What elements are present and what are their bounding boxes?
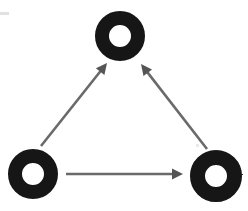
scan-artifact-speck: [196, 144, 199, 147]
top-ring-shape: [102, 18, 138, 54]
edge-right-to-top-line: [147, 71, 207, 149]
diagram-canvas: [0, 0, 248, 211]
edge-left-to-top-line: [41, 70, 101, 146]
edge-right-to-top: [141, 64, 207, 149]
bottom-left-ring-shape: [15, 156, 51, 192]
diagram-svg: [0, 0, 248, 211]
node-bottom-right-ring: [198, 158, 235, 195]
node-top-ring: [102, 18, 138, 54]
node-bottom-left-ring: [15, 156, 51, 192]
edge-left-to-right: [66, 169, 183, 180]
scan-artifact-speck: [0, 12, 9, 15]
arrowhead-icon: [172, 169, 183, 180]
bottom-right-ring-shape: [198, 158, 235, 195]
edge-left-to-top: [41, 63, 107, 146]
